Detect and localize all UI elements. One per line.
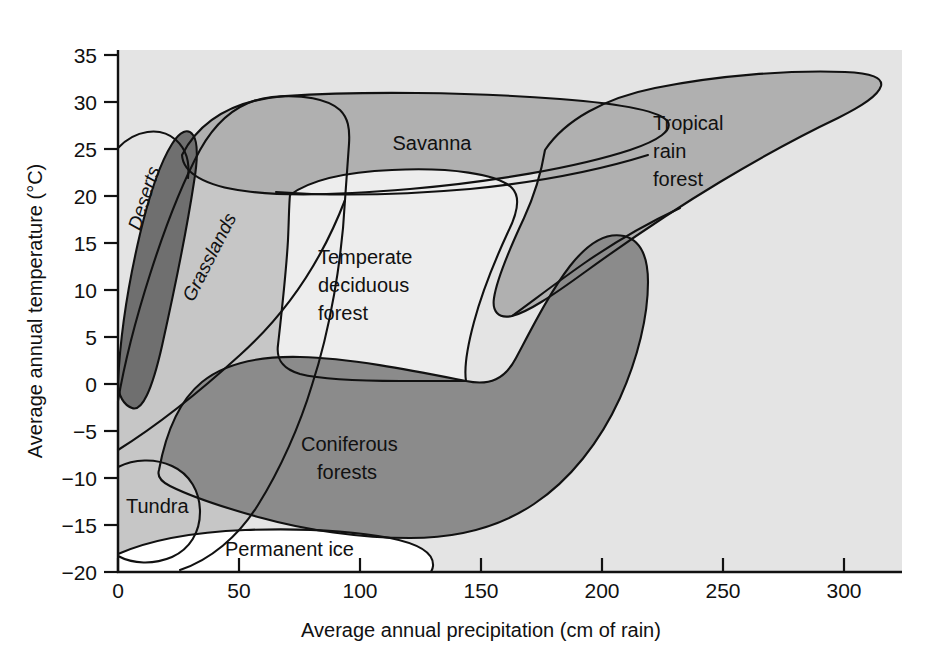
x-tick-label: 50 — [227, 579, 250, 602]
y-tick-label: 15 — [74, 232, 97, 255]
x-axis-title: Average annual precipitation (cm of rain… — [301, 619, 661, 641]
y-tick-label: 5 — [85, 326, 97, 349]
label-line: Coniferous — [301, 433, 398, 455]
label-permanent-ice: Permanent ice — [225, 538, 354, 560]
x-tick-label: 250 — [705, 579, 740, 602]
y-tick-label: −15 — [61, 514, 97, 537]
label-line: forest — [318, 302, 368, 324]
y-tick-label: −10 — [61, 467, 97, 490]
label-line: deciduous — [318, 274, 409, 296]
y-tick-label: 35 — [74, 44, 97, 67]
y-tick-label: −5 — [73, 420, 97, 443]
x-tick-label: 150 — [463, 579, 498, 602]
label-line: Temperate — [318, 246, 413, 268]
y-tick-label: 10 — [74, 279, 97, 302]
biome-chart: 35 30 25 20 15 10 5 0 −5 −10 −15 −20 0 5… — [0, 0, 938, 671]
biome-climate-figure: 35 30 25 20 15 10 5 0 −5 −10 −15 −20 0 5… — [0, 0, 938, 671]
y-axis-title: Average annual temperature (°C) — [24, 164, 46, 458]
y-tick-label: 25 — [74, 138, 97, 161]
y-tick-label: −20 — [61, 561, 97, 584]
label-savanna: Savanna — [393, 132, 473, 154]
x-tick-label: 200 — [584, 579, 619, 602]
label-line: rain — [653, 140, 686, 162]
label-tundra: Tundra — [126, 495, 190, 517]
y-tick-label: 20 — [74, 185, 97, 208]
label-line: forests — [317, 461, 377, 483]
label-line: Tropical — [653, 112, 723, 134]
label-line: forest — [653, 168, 703, 190]
x-tick-label: 100 — [342, 579, 377, 602]
x-tick-label: 0 — [112, 579, 124, 602]
y-tick-label: 0 — [85, 373, 97, 396]
x-tick-label: 300 — [826, 579, 861, 602]
y-tick-label: 30 — [74, 91, 97, 114]
